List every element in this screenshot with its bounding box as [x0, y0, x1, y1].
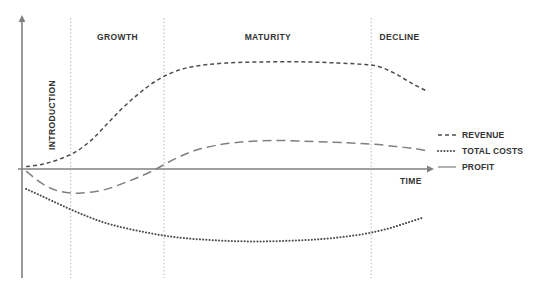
stage-divider-group	[71, 18, 371, 278]
stage-label-maturity: MATURITY	[245, 32, 291, 42]
legend-label: PROFIT	[462, 162, 494, 172]
legend-item-revenue: REVENUE	[437, 127, 532, 143]
stage-label-growth: GROWTH	[97, 32, 138, 42]
series-group	[26, 62, 428, 242]
legend-label: TOTAL COSTS	[462, 146, 523, 156]
series-line-total-costs	[26, 189, 424, 242]
series-line-profit	[26, 140, 428, 193]
chart-legend: REVENUETOTAL COSTSPROFIT	[437, 127, 532, 175]
legend-swatch-dotted-icon	[437, 146, 457, 156]
x-axis-title: TIME	[400, 176, 422, 186]
product-life-cycle-chart: INTRODUCTION GROWTH MATURITY DECLINE TIM…	[0, 0, 534, 284]
legend-item-profit: PROFIT	[437, 159, 532, 175]
x-axis-arrowhead	[427, 166, 434, 173]
stage-label-decline: DECLINE	[380, 32, 420, 42]
legend-swatch-dashed-icon	[437, 130, 457, 140]
legend-swatch-solid-icon	[437, 162, 457, 172]
y-axis-arrowhead	[19, 15, 26, 22]
stage-label-introduction: INTRODUCTION	[47, 80, 57, 150]
series-line-revenue	[26, 62, 428, 167]
legend-item-total-costs: TOTAL COSTS	[437, 143, 532, 159]
legend-label: REVENUE	[462, 130, 505, 140]
